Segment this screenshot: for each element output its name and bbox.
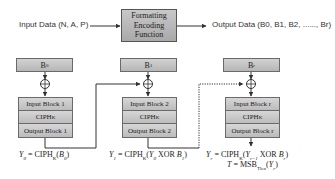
block-b0-sub: 0 bbox=[46, 63, 49, 68]
equation-tag: T = MSBTlen(Yr) bbox=[227, 160, 278, 171]
cipher-stack-r: Input Block r CIPHK Output Block r bbox=[225, 97, 280, 138]
ciph-sub-2: K bbox=[156, 115, 160, 120]
block-b1: B1 bbox=[120, 58, 177, 72]
cipher-stack-1: Input Block 1 CIPHK Output Block 1 bbox=[18, 97, 73, 138]
output-block-1: Output Block 1 bbox=[19, 124, 72, 137]
formatting-encoding-function-box: Formatting Encoding Function bbox=[121, 9, 177, 42]
output-block-r: Output Block r bbox=[226, 124, 279, 137]
equation-y1: Y1 = CIPHK(Y0 XOR B1) bbox=[109, 150, 187, 161]
equation-y0: Y0 = CIPHK(B0) bbox=[19, 150, 69, 161]
output-data-label: Output Data (B0, B1, B2, ......, Br) bbox=[212, 20, 331, 29]
ciph-label-2: CIPH bbox=[140, 113, 156, 121]
block-br-sub: r bbox=[253, 63, 255, 68]
ciph-label-r: CIPH bbox=[243, 113, 259, 121]
input-block-1: Input Block 1 bbox=[19, 98, 72, 111]
ciph-k-r: CIPHK bbox=[226, 111, 279, 124]
function-line-2: Encoding bbox=[134, 21, 165, 31]
ciph-k-2: CIPHK bbox=[123, 111, 176, 124]
ciph-sub-1: K bbox=[52, 115, 56, 120]
function-line-3: Function bbox=[135, 30, 163, 40]
ciph-label-1: CIPH bbox=[36, 113, 52, 121]
input-data-label: Input Data (N, A, P) bbox=[19, 20, 88, 29]
ciph-k-1: CIPHK bbox=[19, 111, 72, 124]
input-block-2: Input Block 2 bbox=[123, 98, 176, 111]
function-line-1: Formatting bbox=[131, 11, 167, 21]
block-br: Br bbox=[223, 58, 280, 72]
equation-yr: Yr = CIPHK(Yr−1 XOR Br) bbox=[206, 150, 288, 161]
cipher-stack-2: Input Block 2 CIPHK Output Block 2 bbox=[122, 97, 177, 138]
block-b0: B0 bbox=[16, 58, 73, 72]
input-block-r: Input Block r bbox=[226, 98, 279, 111]
ciph-sub-r: K bbox=[259, 115, 263, 120]
cbc-mac-diagram: Input Data (N, A, P) Formatting Encoding… bbox=[0, 0, 335, 179]
output-block-2: Output Block 2 bbox=[123, 124, 176, 137]
block-b1-sub: 1 bbox=[150, 63, 153, 68]
